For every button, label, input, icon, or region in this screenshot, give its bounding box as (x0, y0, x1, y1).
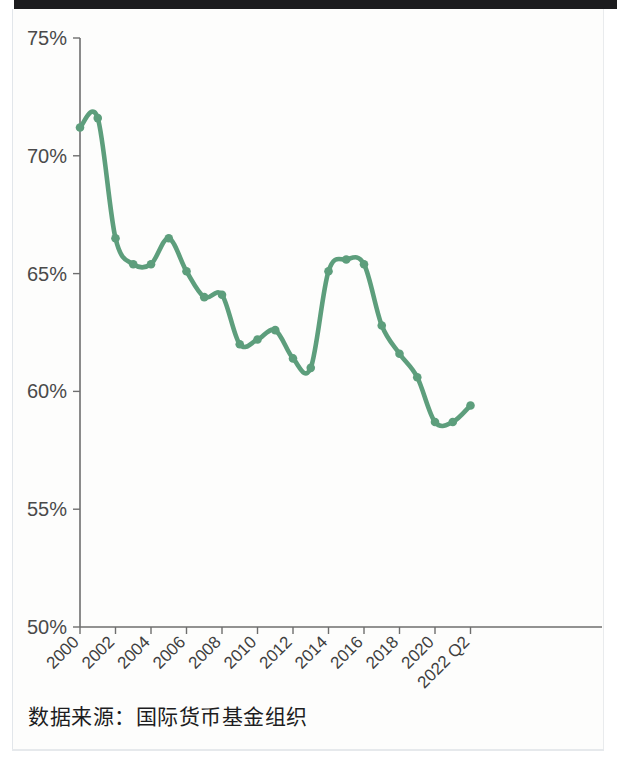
x-tick-label: 2006 (149, 632, 189, 672)
x-tick-label: 2002 (78, 632, 118, 672)
x-tick-label: 2010 (220, 632, 260, 672)
series-data-point (448, 418, 457, 427)
chart-area: 50%55%60%65%70%75% 200020022004200620082… (0, 0, 617, 700)
y-tick-label: 55% (27, 498, 67, 520)
series-data-point (395, 349, 404, 358)
series-data-point (289, 354, 298, 363)
x-tick-label: 2000 (43, 632, 83, 672)
line-chart: 50%55%60%65%70%75% 200020022004200620082… (0, 0, 617, 700)
y-tick-label: 75% (27, 27, 67, 49)
series-data-point (377, 321, 386, 330)
x-tick-label: 2012 (256, 632, 296, 672)
y-tick-label: 60% (27, 380, 67, 402)
y-tick-label: 50% (27, 616, 67, 638)
series-data-point (200, 293, 209, 302)
series-line (80, 112, 471, 426)
series-data-point (111, 234, 120, 243)
series-data-point (147, 260, 156, 269)
y-axis: 50%55%60%65%70%75% (27, 27, 80, 638)
series-data-point (76, 123, 85, 132)
series-data-point (431, 418, 440, 427)
x-tick-label: 2016 (327, 632, 367, 672)
x-tick-label: 2018 (362, 632, 402, 672)
series-data-point (324, 267, 333, 276)
y-tick-label: 70% (27, 145, 67, 167)
source-note: 数据来源：国际货币基金组织 (28, 700, 308, 730)
series-data-point (253, 335, 262, 344)
x-tick-label: 2014 (291, 632, 331, 672)
x-axis: 2000200220042006200820102012201420162018… (43, 627, 602, 692)
series-data-point (218, 291, 227, 300)
series-data-point (342, 255, 351, 264)
data-series (76, 112, 475, 427)
x-tick-label: 2004 (114, 632, 154, 672)
series-data-point (306, 364, 315, 373)
series-data-point (466, 401, 475, 410)
series-data-point (164, 234, 173, 243)
series-data-point (360, 260, 369, 269)
series-data-point (93, 114, 102, 123)
figure-card-bottom-rule (12, 749, 604, 751)
figure-page: 50%55%60%65%70%75% 200020022004200620082… (0, 0, 617, 760)
x-tick-label: 2008 (185, 632, 225, 672)
series-data-point (413, 373, 422, 382)
series-data-point (271, 326, 280, 335)
series-data-point (182, 267, 191, 276)
series-data-point (129, 260, 138, 269)
series-data-point (235, 340, 244, 349)
y-tick-label: 65% (27, 263, 67, 285)
